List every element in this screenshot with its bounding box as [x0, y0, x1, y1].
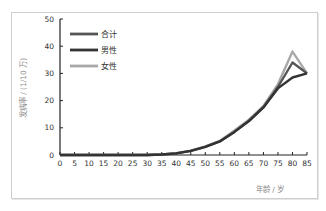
y-tick-label: 50 [44, 15, 54, 24]
y-tick-label: 0 [49, 151, 54, 160]
y-tick-label: 30 [44, 69, 54, 78]
line-chart: 01020304050 0510152025303540455055606570… [0, 0, 326, 211]
x-tick-label: 75 [273, 159, 283, 168]
y-tick-label: 20 [44, 96, 54, 105]
x-tick-label: 45 [186, 159, 196, 168]
x-tick-label: 80 [288, 159, 298, 168]
legend: 合计男性女性 [70, 29, 117, 71]
legend-label: 男性 [101, 45, 117, 55]
legend-label: 合计 [101, 29, 117, 39]
y-tick-label: 40 [44, 42, 54, 51]
x-axis-title: 年龄 / 岁 [256, 184, 284, 194]
x-tick-label: 70 [259, 159, 269, 168]
x-tick-label: 0 [58, 159, 63, 168]
x-tick-label: 35 [157, 159, 167, 168]
y-axis-title: 发病率 / (1/10 万) [18, 58, 28, 118]
x-tick-label: 30 [142, 159, 152, 168]
y-tick-label: 10 [44, 123, 54, 132]
x-tick-label: 85 [302, 159, 312, 168]
x-tick-label: 10 [84, 159, 94, 168]
legend-label: 女性 [101, 61, 117, 71]
x-tick-label: 5 [72, 159, 77, 168]
x-tick-label: 40 [171, 159, 181, 168]
x-tick-label: 60 [230, 159, 240, 168]
x-tick-label: 65 [244, 159, 254, 168]
y-axis: 01020304050 [44, 15, 63, 160]
x-tick-label: 50 [201, 159, 211, 168]
series-line [60, 63, 307, 156]
x-tick-label: 55 [215, 159, 225, 168]
series-line [60, 73, 307, 155]
x-tick-label: 15 [99, 159, 109, 168]
x-tick-label: 25 [128, 159, 138, 168]
x-tick-label: 20 [113, 159, 123, 168]
